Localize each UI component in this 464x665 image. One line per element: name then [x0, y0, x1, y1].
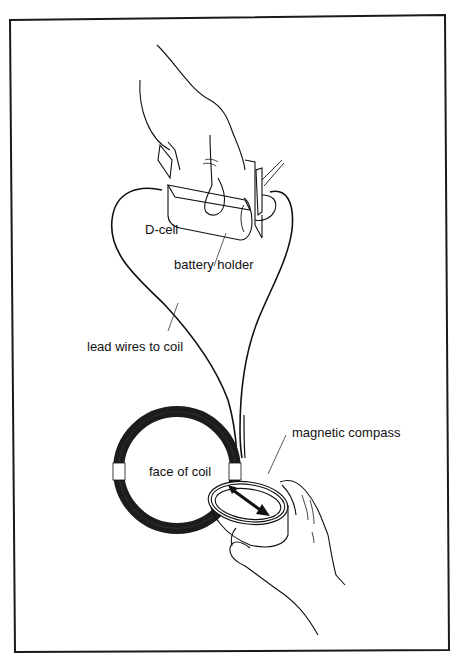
lead-wires-label: lead wires to coil — [87, 340, 183, 353]
diagram-stage: D-cell battery holder lead wires to coil… — [0, 0, 464, 665]
d-cell-label: D-cell — [145, 223, 178, 236]
compass-leader — [268, 435, 286, 474]
apparatus-drawing — [0, 0, 464, 665]
magnetic-compass-label: magnetic compass — [292, 426, 400, 439]
compass-icon — [205, 477, 290, 547]
battery-holder-label: battery holder — [174, 258, 254, 271]
figure-frame — [10, 15, 449, 652]
face-of-coil-label: face of coil — [149, 465, 211, 478]
